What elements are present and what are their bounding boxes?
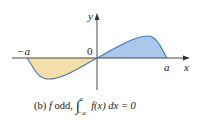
- figure-caption: (b) f odd, ∫a−a f(x) dx = 0: [34, 97, 136, 112]
- caption-part: (b): [34, 100, 46, 111]
- origin-label: 0: [87, 46, 93, 57]
- x-axis-arrow-icon: [183, 56, 190, 61]
- caption-function: f: [49, 100, 52, 111]
- integral-lower-limit: −a: [78, 110, 86, 117]
- neg-a-tick-label: −a: [17, 46, 30, 57]
- caption-property: odd,: [54, 100, 72, 111]
- x-axis-label: x: [184, 62, 189, 73]
- caption-integrand: f(x) dx = 0: [91, 100, 136, 111]
- integral-upper-limit: a: [80, 96, 84, 103]
- y-axis-label: y: [88, 11, 93, 22]
- integral-limits: a−a: [80, 102, 89, 112]
- y-axis-arrow-icon: [95, 13, 100, 20]
- pos-a-tick-label: a: [164, 62, 170, 73]
- positive-area-region: [97, 36, 167, 58]
